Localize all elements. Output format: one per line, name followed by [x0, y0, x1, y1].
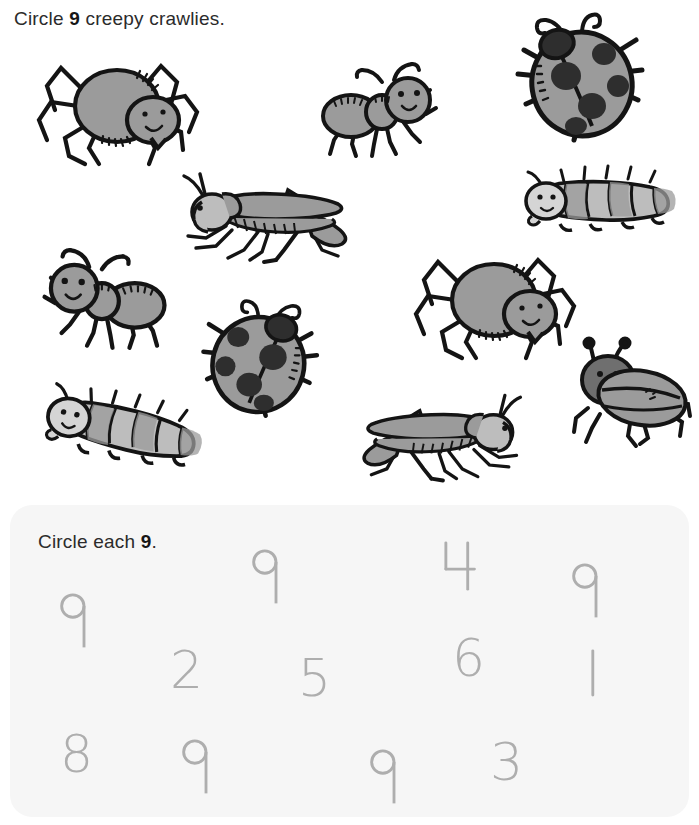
spider-icon[interactable]	[402, 246, 582, 364]
number-search-panel: Circle each 9. 25683	[10, 505, 689, 817]
insect-illustration-area	[0, 0, 699, 500]
caterpillar-icon[interactable]	[30, 366, 226, 495]
grasshopper-icon[interactable]	[352, 388, 532, 484]
digit-2[interactable]: 2	[170, 644, 203, 696]
ladybug-icon[interactable]	[508, 14, 648, 142]
digit-5[interactable]: 5	[298, 652, 331, 704]
digit-4[interactable]	[443, 540, 477, 600]
digit-3[interactable]: 3	[490, 736, 523, 788]
digit-1[interactable]	[585, 648, 601, 706]
ant-icon[interactable]	[316, 62, 444, 160]
digit-6[interactable]: 6	[452, 632, 485, 684]
digit-8[interactable]: 8	[60, 728, 93, 780]
caterpillar-icon[interactable]	[518, 166, 690, 238]
beetle-icon[interactable]	[558, 332, 694, 450]
digit-grid: 25683	[10, 505, 689, 817]
ant-icon[interactable]	[34, 248, 174, 352]
spider-icon[interactable]	[25, 52, 205, 170]
grasshopper-icon[interactable]	[172, 168, 358, 264]
